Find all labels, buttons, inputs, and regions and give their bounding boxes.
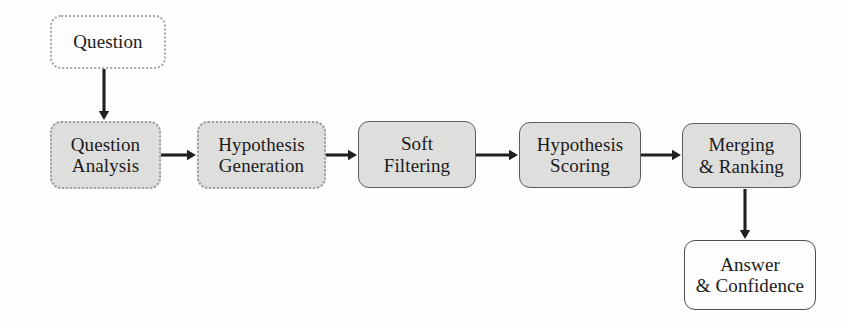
node-label-hypothesis-scoring: Hypothesis Scoring [537,134,624,177]
node-label-merging-ranking: Merging & Ranking [699,134,784,177]
node-hypothesis-generation: Hypothesis Generation [197,121,326,189]
node-label-answer-confidence: Answer & Confidence [696,254,804,297]
node-question: Question [50,15,166,69]
node-label-question: Question [73,31,142,52]
pipeline-diagram: QuestionQuestion AnalysisHypothesis Gene… [0,0,843,326]
node-label-question-analysis: Question Analysis [71,134,140,177]
node-merging-ranking: Merging & Ranking [682,123,801,188]
node-question-analysis: Question Analysis [50,121,161,189]
node-answer-confidence: Answer & Confidence [684,240,816,310]
node-label-hypothesis-generation: Hypothesis Generation [218,134,305,177]
node-label-soft-filtering: Soft Filtering [384,133,450,176]
node-soft-filtering: Soft Filtering [358,121,476,188]
node-hypothesis-scoring: Hypothesis Scoring [519,122,641,188]
